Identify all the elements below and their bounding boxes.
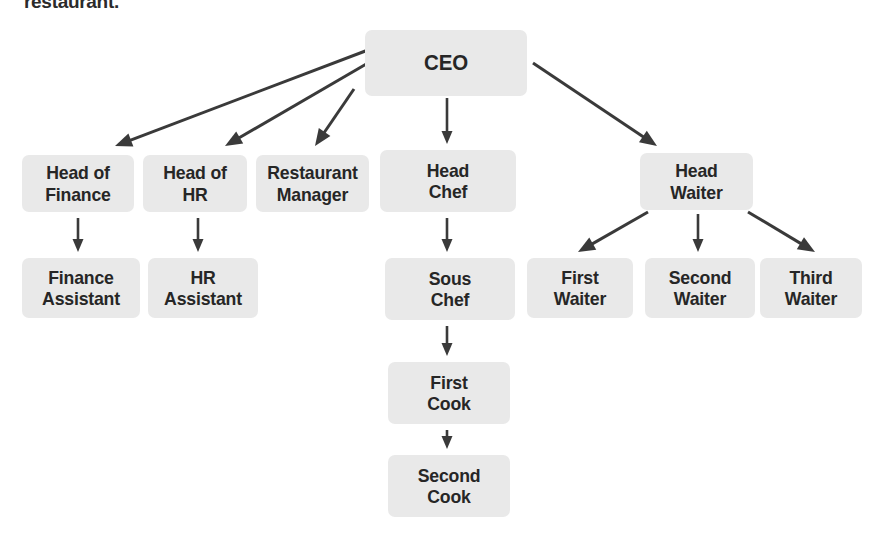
- connector-head_chef-to-sous_chef: [442, 218, 453, 252]
- node-first_cook[interactable]: FirstCook: [388, 362, 510, 424]
- node-label: HRAssistant: [156, 267, 251, 310]
- node-ceo[interactable]: CEO: [365, 30, 527, 96]
- connector-ceo-to-head_hr: [225, 63, 368, 146]
- node-label: RestaurantManager: [264, 162, 362, 205]
- connector-head_waiter-to-second_waiter: [693, 214, 704, 252]
- node-label: SecondCook: [396, 465, 502, 508]
- node-label: FirstWaiter: [534, 267, 625, 310]
- diagram-caption: restaurant.: [24, 0, 119, 13]
- node-sous_chef[interactable]: SousChef: [385, 258, 515, 320]
- node-label: HeadWaiter: [648, 160, 746, 203]
- node-label: ThirdWaiter: [767, 267, 854, 310]
- node-head_chef[interactable]: HeadChef: [380, 150, 516, 212]
- node-rest_manager[interactable]: RestaurantManager: [256, 155, 369, 212]
- node-label: Head ofHR: [150, 162, 239, 205]
- connector-head_waiter-to-third_waiter: [748, 212, 815, 252]
- node-label: SousChef: [393, 268, 506, 311]
- node-hr_asst[interactable]: HRAssistant: [148, 258, 258, 318]
- connector-first_cook-to-second_cook: [442, 430, 453, 449]
- connector-head_hr-to-hr_asst: [193, 218, 204, 252]
- node-label: FinanceAssistant: [30, 267, 132, 310]
- org-chart-diagram: restaurant. CEOHead ofFinanceHead ofHRRe…: [0, 0, 883, 545]
- node-label: HeadChef: [388, 160, 507, 203]
- connector-sous_chef-to-first_cook: [442, 326, 453, 356]
- connector-head_finance-to-finance_asst: [73, 218, 84, 252]
- node-label: FirstCook: [396, 372, 502, 415]
- node-second_waiter[interactable]: SecondWaiter: [645, 258, 755, 318]
- connector-ceo-to-head_chef: [442, 98, 453, 144]
- node-head_hr[interactable]: Head ofHR: [143, 155, 247, 212]
- node-label: SecondWaiter: [653, 267, 748, 310]
- connector-ceo-to-head_waiter: [533, 63, 657, 146]
- node-first_waiter[interactable]: FirstWaiter: [527, 258, 633, 318]
- node-head_waiter[interactable]: HeadWaiter: [640, 153, 753, 210]
- connector-ceo-to-rest_manager: [315, 89, 354, 146]
- node-second_cook[interactable]: SecondCook: [388, 455, 510, 517]
- node-third_waiter[interactable]: ThirdWaiter: [760, 258, 862, 318]
- node-finance_asst[interactable]: FinanceAssistant: [22, 258, 140, 318]
- connector-ceo-to-head_finance: [115, 50, 368, 147]
- node-label: Head ofFinance: [30, 162, 127, 205]
- connector-head_waiter-to-first_waiter: [578, 212, 648, 252]
- node-label: CEO: [374, 51, 517, 76]
- node-head_finance[interactable]: Head ofFinance: [22, 155, 134, 212]
